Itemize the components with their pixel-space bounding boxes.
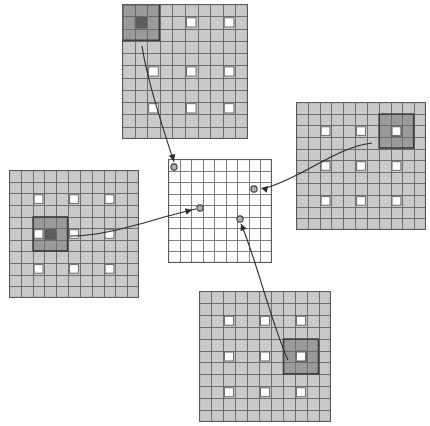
- unit-cell: [224, 104, 234, 113]
- top-feature-map[interactable]: [122, 4, 248, 139]
- receptive-field-core: [135, 16, 148, 28]
- unit-cell: [105, 265, 114, 274]
- unit-cell: [70, 195, 79, 204]
- unit-cell: [392, 127, 401, 136]
- unit-cell: [321, 127, 330, 136]
- unit-cell: [224, 18, 234, 27]
- unit-cell: [321, 162, 330, 171]
- unit-cell: [297, 316, 306, 325]
- unit-cell: [357, 197, 366, 206]
- unit-cell: [225, 316, 234, 325]
- unit-cell: [225, 388, 234, 397]
- unit-cell: [70, 265, 79, 274]
- unit-cell: [70, 230, 79, 239]
- unit-cell: [34, 195, 43, 204]
- unit-cell: [321, 197, 330, 206]
- unit-cell: [105, 195, 114, 204]
- unit-cell: [187, 18, 197, 27]
- unit-cell: [392, 197, 401, 206]
- unit-cell: [224, 67, 234, 76]
- unit-cell: [225, 352, 234, 361]
- unit-cell: [34, 230, 43, 239]
- unit-cell: [187, 104, 197, 113]
- unit-cell: [261, 388, 270, 397]
- bottom-feature-map[interactable]: [199, 291, 331, 422]
- unit-cell: [297, 388, 306, 397]
- unit-cell: [357, 127, 366, 136]
- unit-cell: [357, 162, 366, 171]
- unit-cell: [392, 162, 401, 171]
- right-feature-map[interactable]: [296, 102, 426, 230]
- left-feature-map[interactable]: [9, 170, 139, 298]
- receptive-field-core: [44, 228, 56, 240]
- unit-cell: [105, 230, 114, 239]
- center-feature-map[interactable]: [168, 159, 272, 263]
- unit-cell: [149, 67, 159, 76]
- unit-cell: [261, 316, 270, 325]
- unit-cell: [149, 104, 159, 113]
- unit-cell: [34, 265, 43, 274]
- unit-cell: [297, 352, 306, 361]
- unit-cell: [261, 352, 270, 361]
- grid-background: [169, 160, 272, 263]
- diagram-canvas: [0, 0, 430, 426]
- unit-cell: [187, 67, 197, 76]
